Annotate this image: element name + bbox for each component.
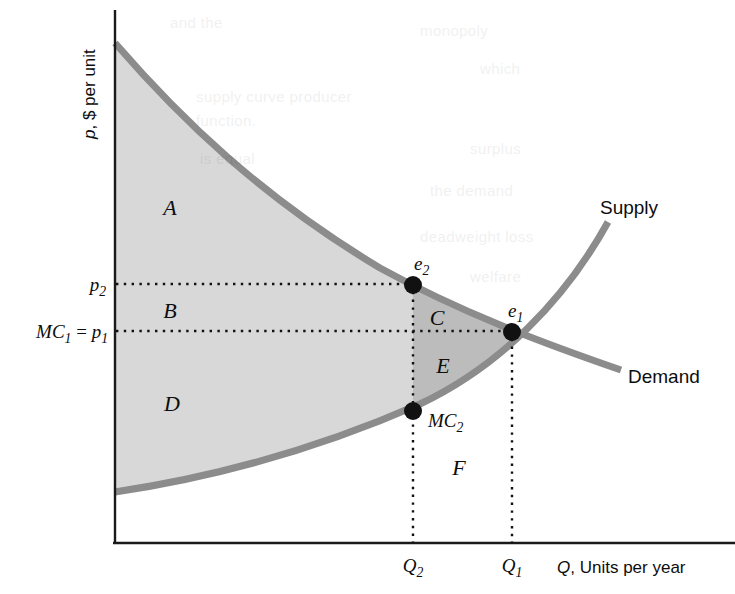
region-label-a: A <box>161 195 177 220</box>
region-label-e: E <box>435 353 450 378</box>
x-tick-label-q1: Q1 <box>502 555 523 580</box>
x-tick-label-q2: Q2 <box>403 555 424 580</box>
supply-demand-figure: and themonopolysupply curve producerfunc… <box>0 0 735 594</box>
x-axis-label: Q, Units per year <box>557 558 686 577</box>
region-label-c: C <box>430 305 445 330</box>
region-label-b: B <box>163 298 176 323</box>
point-label-e1: e1 <box>508 300 523 325</box>
demand-curve-label: Demand <box>628 366 700 387</box>
point-label-mc2: MC2 <box>427 410 464 435</box>
chart-canvas: p, $ per unit Q, Units per year p2 MC1 =… <box>0 0 735 594</box>
region-label-f: F <box>451 455 466 480</box>
y-tick-label-p2: p2 <box>88 274 107 299</box>
supply-curve-label: Supply <box>600 197 659 218</box>
point-label-e2: e2 <box>414 253 429 278</box>
point-mc2-marker <box>404 402 422 420</box>
region-label-d: D <box>163 391 180 416</box>
y-axis-label: p, $ per unit <box>80 49 99 140</box>
point-e2-marker <box>404 276 422 294</box>
point-e1-marker <box>503 323 521 341</box>
y-tick-label-mc1-p1: MC1 = p1 <box>35 321 108 346</box>
